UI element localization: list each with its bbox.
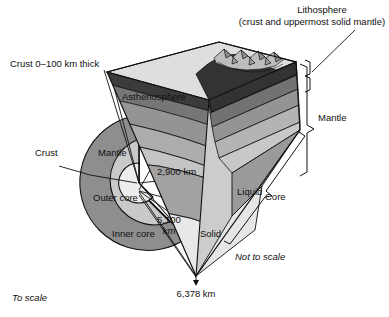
label-crust-sphere: Crust: [35, 147, 58, 158]
label-mantle-right: Mantle: [318, 112, 347, 123]
label-depth-2900: 2,900 km: [157, 166, 196, 177]
label-radius-6378: 6,378 km: [162, 288, 230, 299]
label-crust-thickness: Crust 0–100 km thick: [10, 58, 99, 69]
title-lithosphere: Lithosphere: [258, 4, 386, 15]
label-solid: Solid: [200, 228, 221, 239]
label-to-scale: To scale: [12, 292, 47, 303]
label-outer-core: Outer core: [93, 192, 138, 203]
bracket-mantle: [300, 64, 314, 176]
label-mantle-left: Mantle: [98, 147, 127, 158]
label-not-to-scale: Not to scale: [235, 251, 285, 262]
radius-arrowhead: [193, 280, 199, 286]
leader-lithosphere: [312, 30, 355, 72]
label-asthenosphere: Asthenosphere: [122, 91, 186, 102]
label-core-bracket: Core: [265, 191, 286, 202]
label-inner-core: Inner core: [112, 228, 155, 239]
diagram-canvas: [0, 0, 389, 317]
title-lithosphere-subtitle: (crust and uppermost solid mantle): [236, 16, 388, 27]
earth-interior-diagram: Lithosphere (crust and uppermost solid m…: [0, 0, 389, 317]
label-liquid: Liquid: [237, 186, 262, 197]
label-depth-5100-line1: 5,100: [152, 214, 186, 225]
label-depth-5100-line2: km: [152, 225, 186, 236]
